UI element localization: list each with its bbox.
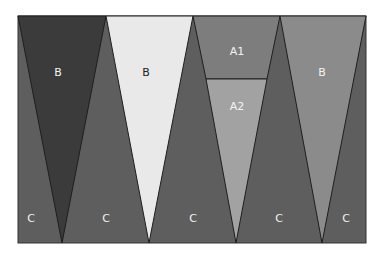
region-label-c: C: [27, 212, 35, 225]
region-label-c: C: [342, 212, 350, 225]
region-label-a1: A1: [230, 45, 245, 58]
triangle-partition-diagram: BBA1A2B CCCCC: [0, 0, 382, 256]
region-label-b-light: B: [142, 66, 150, 79]
region-label-b-dark: B: [54, 66, 62, 79]
region-label-a2: A2: [230, 100, 245, 113]
region-label-c: C: [275, 212, 283, 225]
region-label-b-mid: B: [318, 66, 326, 79]
region-label-c: C: [102, 212, 110, 225]
region-label-c: C: [189, 212, 197, 225]
